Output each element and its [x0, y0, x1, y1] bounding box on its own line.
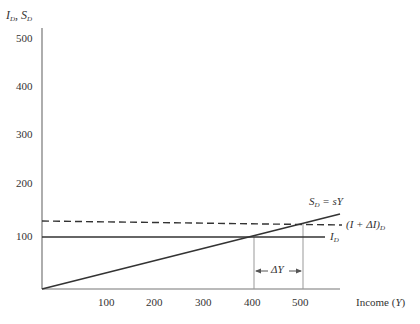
chart-plot-area [0, 0, 420, 324]
x-tick-400: 400 [244, 296, 261, 308]
y-tick-300: 300 [16, 128, 33, 140]
dashed-label-text: (I + ΔI) [346, 218, 380, 230]
x-tick-100: 100 [98, 296, 115, 308]
x-axis-title-text: Income ( [356, 296, 395, 308]
y-tick-500: 500 [16, 32, 33, 44]
x-axis-title: Income (Y) [356, 296, 405, 308]
dashed-label-sub: D [380, 224, 385, 232]
y-tick-100: 100 [16, 230, 33, 242]
arrowhead-right-icon [296, 269, 302, 274]
x-axis-title-close: ) [402, 296, 406, 308]
y-axis-title-s-sub: D [27, 15, 32, 23]
x-tick-500: 500 [292, 296, 309, 308]
line-savings-demand [42, 214, 340, 289]
increased-investment-label: (I + ΔI)D [346, 218, 385, 232]
sd-label-rest: = sY [320, 195, 343, 207]
x-tick-200: 200 [146, 296, 163, 308]
arrowhead-left-icon [255, 269, 261, 274]
y-tick-400: 400 [16, 80, 33, 92]
investment-line-label: ID [330, 230, 339, 244]
delta-y-label: ΔY [270, 263, 285, 275]
id-label-sub: D [334, 236, 339, 244]
savings-line-label: SD = sY [309, 195, 343, 209]
x-tick-300: 300 [195, 296, 212, 308]
y-axis-title: ID, SD [6, 8, 32, 23]
y-tick-200: 200 [16, 177, 33, 189]
